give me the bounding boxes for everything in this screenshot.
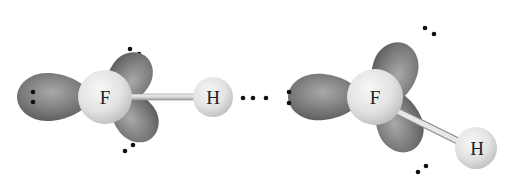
left-hf-molecule: F H [17, 43, 233, 153]
right-f-label: F [370, 87, 381, 108]
hf-hydrogen-bond-diagram: F H F [0, 0, 521, 189]
electron-dot [123, 149, 128, 154]
electron-dot [423, 26, 428, 31]
left-h-label: H [206, 87, 220, 108]
right-hf-molecule: F H [287, 26, 497, 175]
diagram-canvas: F H F [0, 0, 521, 189]
electron-dot [31, 90, 36, 95]
electron-dot [131, 143, 136, 148]
electron-dot [432, 32, 437, 37]
left-f-h-bond [128, 94, 198, 100]
electron-dot [287, 90, 292, 95]
right-h-label: H [470, 138, 484, 159]
electron-dot [128, 47, 133, 52]
electron-dot [424, 164, 429, 169]
electron-dot [31, 100, 36, 105]
electron-dot [287, 101, 292, 106]
electron-dot [416, 170, 421, 175]
hydrogen-bond-dots [241, 96, 269, 101]
left-f-label: F [100, 87, 111, 108]
